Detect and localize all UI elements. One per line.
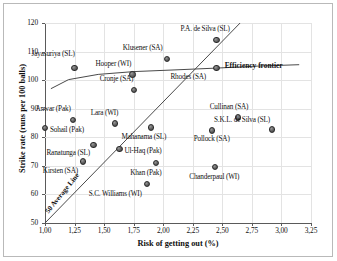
x-tick-label: 1,25 — [60, 226, 90, 235]
data-point[interactable] — [269, 126, 275, 132]
efficiency-frontier-label: Efficiency frontier — [225, 61, 283, 70]
data-point-label: S.C. Williams (WI) — [89, 190, 142, 198]
data-point[interactable] — [116, 146, 122, 152]
x-tick-label: 2,50 — [207, 226, 237, 235]
y-tick-mark — [42, 109, 45, 110]
x-tick-label: 3,25 — [296, 226, 326, 235]
data-point-label: S.K.L. de Silva (SL) — [214, 116, 270, 124]
data-point-label: Lara (WI) — [91, 109, 119, 117]
x-tick-label: 2,00 — [148, 226, 178, 235]
x-tick-label: 3,00 — [266, 226, 296, 235]
data-point[interactable] — [213, 37, 219, 43]
x-tick-label: 2,75 — [237, 226, 267, 235]
y-tick-mark — [42, 223, 45, 224]
data-point-label: Mahanama (SL) — [121, 133, 166, 141]
data-point-label: Rhodes (SA) — [170, 73, 206, 81]
x-axis-title: Risk of getting out (%) — [45, 239, 311, 248]
data-point-label: Anwar (Pak) — [35, 105, 70, 113]
x-tick-label: 2,25 — [178, 226, 208, 235]
x-tick-label: 1,50 — [89, 226, 119, 235]
data-point[interactable] — [144, 181, 150, 187]
data-point[interactable] — [90, 142, 96, 148]
data-point[interactable] — [112, 120, 118, 126]
data-point[interactable] — [42, 125, 48, 131]
data-point[interactable] — [209, 127, 215, 133]
y-tick-mark — [42, 194, 45, 195]
data-point[interactable] — [164, 56, 170, 62]
data-point-label: Chanderpaul (WI) — [189, 173, 239, 181]
data-point[interactable] — [71, 65, 77, 71]
y-tick-mark — [42, 23, 45, 24]
data-point[interactable] — [131, 87, 137, 93]
y-tick-mark — [42, 80, 45, 81]
data-point-label: Ul-Haq (Pak) — [124, 147, 161, 155]
x-tick-label: 1,00 — [30, 226, 60, 235]
data-point-label: Sohail (Pak) — [50, 126, 84, 134]
data-point-label: Cullinan (SA) — [210, 103, 249, 111]
data-point-label: Klusener (SA) — [123, 44, 163, 52]
data-point-label: Ranatunga (SL) — [46, 149, 90, 157]
data-point-label: P.A. de Silva (SL) — [180, 25, 229, 33]
data-point-label: Pollock (SA) — [194, 135, 230, 143]
y-tick-mark — [42, 52, 45, 53]
y-tick-mark — [42, 137, 45, 138]
data-point-label: Cronje (SA) — [100, 75, 134, 83]
scatter-plot-area: Jayasuriya (SL)Sohail (Pak)Anwar (Pak)Ra… — [45, 23, 311, 224]
data-point[interactable] — [213, 65, 219, 71]
gridline-vertical — [311, 23, 312, 223]
y-tick-mark — [42, 166, 45, 167]
data-point-label: Khan (Pak) — [130, 169, 161, 177]
chart-frame: Jayasuriya (SL)Sohail (Pak)Anwar (Pak)Ra… — [3, 3, 333, 257]
data-point[interactable] — [129, 71, 135, 77]
data-point-label: Jayasuriya (SL) — [32, 50, 75, 58]
data-point[interactable] — [80, 158, 86, 164]
y-axis-title: Strike rate (runs per 100 balls) — [18, 19, 27, 219]
y-tick-label: 50 — [12, 218, 38, 227]
data-point-label: Hooper (WI) — [95, 60, 131, 68]
trend-lines — [45, 23, 311, 224]
x-tick-label: 1,75 — [119, 226, 149, 235]
